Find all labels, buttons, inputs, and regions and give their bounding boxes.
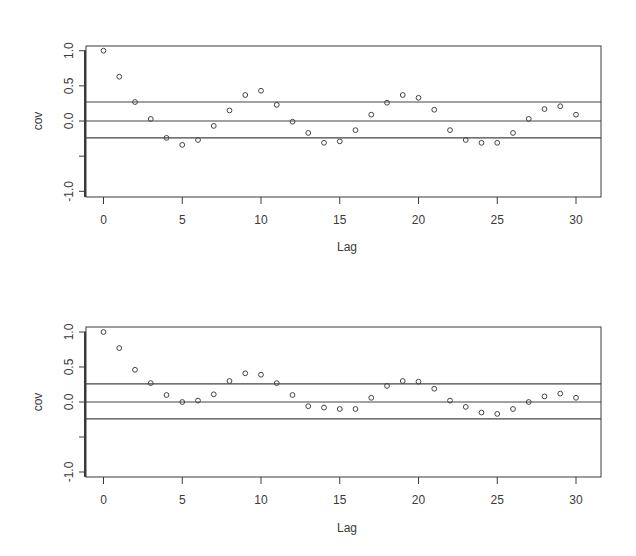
data-point [164,393,169,398]
data-point [227,379,232,384]
top-acf-plot: cov Lag 1.00.50.0-1.0051015202530 [31,42,601,254]
data-point [211,124,216,129]
data-point [385,100,390,105]
data-point [117,346,122,351]
y-tick-label: 0.5 [62,358,76,375]
data-point [101,330,106,335]
x-tick-label: 10 [254,493,268,507]
data-point [448,128,453,133]
data-point [479,410,484,415]
y-axis-label: cov [31,393,45,412]
data-point [180,143,185,148]
x-tick-label: 20 [412,493,426,507]
y-axis-label: cov [31,112,45,131]
y-tick-label: -1.0 [62,461,76,482]
figure: cov Lag 1.00.50.0-1.0051015202530 cov La… [0,0,636,556]
data-point [353,128,358,133]
data-point [558,391,563,396]
data-point [306,404,311,409]
data-point [322,405,327,410]
data-point [400,93,405,98]
y-tick-label: 1.0 [62,42,76,59]
data-point [479,140,484,145]
x-tick-label: 5 [179,213,186,227]
data-point [290,393,295,398]
data-point [290,119,295,124]
x-tick-label: 5 [179,493,186,507]
x-tick-label: 15 [333,493,347,507]
data-point [259,88,264,93]
x-tick-label: 30 [569,213,583,227]
data-point [369,112,374,117]
y-tick-label: -1.0 [62,181,76,202]
data-point [101,48,106,53]
bottom-acf-plot: cov Lag 1.00.50.0-1.0051015202530 [31,323,601,535]
data-point [463,405,468,410]
x-tick-label: 0 [100,213,107,227]
data-point [432,107,437,112]
y-tick-label: 0.5 [62,77,76,94]
x-tick-label: 25 [491,213,505,227]
data-point [337,139,342,144]
data-point [495,140,500,145]
data-point [432,386,437,391]
data-point [274,102,279,107]
data-point [574,395,579,400]
y-tick-label: 0.0 [62,112,76,129]
x-tick-label: 15 [333,213,347,227]
data-point [148,381,153,386]
y-tick-label: 0.0 [62,393,76,410]
y-tick-label: 1.0 [62,323,76,340]
data-point [274,381,279,386]
data-point [117,74,122,79]
data-point [369,395,374,400]
x-tick-label: 25 [491,493,505,507]
x-tick-label: 20 [412,213,426,227]
data-point [353,407,358,412]
x-tick-label: 0 [100,493,107,507]
data-point [243,93,248,98]
data-point [542,394,547,399]
data-point [511,407,516,412]
data-point [574,112,579,117]
data-point [416,95,421,100]
x-tick-label: 30 [569,493,583,507]
data-point [259,372,264,377]
data-point [542,107,547,112]
x-axis-label: Lag [337,240,357,254]
data-point [133,367,138,372]
data-point [495,412,500,417]
data-point [337,407,342,412]
data-point [306,131,311,136]
x-tick-label: 10 [254,213,268,227]
data-point [558,104,563,109]
x-axis-label: Lag [337,521,357,535]
data-point [322,140,327,145]
data-point [400,379,405,384]
data-point [211,392,216,397]
data-point [243,371,248,376]
data-point [227,108,232,113]
data-point [511,131,516,136]
